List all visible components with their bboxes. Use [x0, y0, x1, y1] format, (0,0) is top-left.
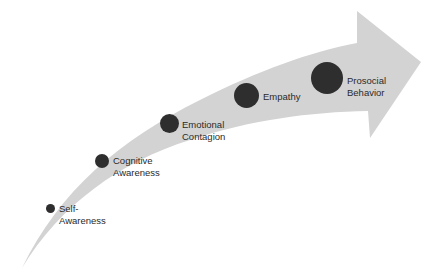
stage-label: Self- Awareness: [59, 203, 106, 226]
stage-label: Emotional Contagion: [182, 119, 225, 142]
progression-diagram: Self- Awareness Cognitive Awareness Emot…: [0, 0, 442, 275]
stage-label: Cognitive Awareness: [113, 155, 160, 178]
stage-dot: [95, 154, 109, 168]
stage-label: Empathy: [263, 91, 301, 103]
stage-label: Prosocial Behavior: [347, 75, 386, 98]
stage-dot: [46, 204, 55, 213]
stage-dot: [234, 83, 259, 108]
stage-dot: [160, 114, 179, 133]
stage-dot: [311, 62, 343, 94]
